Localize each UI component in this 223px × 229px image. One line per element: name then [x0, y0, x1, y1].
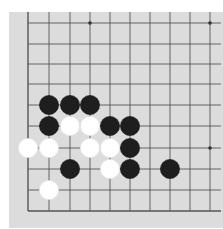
white-stone: [80, 116, 99, 135]
board-intersection[interactable]: [141, 181, 159, 199]
board-intersection[interactable]: [181, 160, 199, 178]
board-intersection[interactable]: [81, 202, 99, 220]
board-intersection[interactable]: [141, 14, 159, 32]
board-intersection[interactable]: [19, 160, 37, 178]
board-intersection[interactable]: [40, 202, 58, 220]
white-stone: [39, 138, 58, 157]
board-intersection[interactable]: [101, 14, 119, 32]
board-intersection[interactable]: [141, 202, 159, 220]
white-stone: [100, 159, 119, 178]
board-intersection[interactable]: [161, 117, 179, 135]
board-intersection[interactable]: [181, 75, 199, 93]
board-intersection[interactable]: [201, 181, 219, 199]
board-intersection[interactable]: [19, 55, 37, 73]
board-intersection[interactable]: [141, 75, 159, 93]
board-intersection[interactable]: [19, 75, 37, 93]
board-intersection[interactable]: [201, 202, 219, 220]
black-stone: [120, 138, 139, 157]
board-intersection[interactable]: [121, 14, 139, 32]
board-intersection[interactable]: [141, 35, 159, 53]
board-intersection[interactable]: [40, 75, 58, 93]
board-intersection[interactable]: [161, 55, 179, 73]
board-intersection[interactable]: [81, 35, 99, 53]
go-board[interactable]: [0, 0, 223, 229]
board-intersection[interactable]: [40, 35, 58, 53]
board-intersection[interactable]: [61, 75, 79, 93]
board-intersection[interactable]: [201, 35, 219, 53]
board-intersection[interactable]: [81, 181, 99, 199]
board-intersection[interactable]: [161, 75, 179, 93]
board-intersection[interactable]: [19, 117, 37, 135]
board-intersection[interactable]: [19, 96, 37, 114]
black-stone: [120, 159, 139, 178]
board-intersection[interactable]: [101, 35, 119, 53]
board-intersection[interactable]: [201, 117, 219, 135]
white-stone: [60, 116, 79, 135]
white-stone: [100, 138, 119, 157]
board-intersection[interactable]: [181, 14, 199, 32]
board-intersection[interactable]: [101, 96, 119, 114]
board-intersection[interactable]: [121, 35, 139, 53]
board-intersection[interactable]: [40, 14, 58, 32]
board-intersection[interactable]: [101, 55, 119, 73]
board-intersection[interactable]: [161, 14, 179, 32]
board-intersection[interactable]: [40, 160, 58, 178]
board-intersection[interactable]: [141, 96, 159, 114]
board-intersection[interactable]: [181, 139, 199, 157]
board-intersection[interactable]: [61, 139, 79, 157]
board-intersection[interactable]: [181, 181, 199, 199]
board-intersection[interactable]: [121, 96, 139, 114]
black-stone: [120, 116, 139, 135]
board-intersection[interactable]: [161, 181, 179, 199]
board-intersection[interactable]: [141, 160, 159, 178]
board-intersection[interactable]: [61, 55, 79, 73]
board-intersection[interactable]: [81, 14, 99, 32]
white-stone: [18, 138, 37, 157]
board-intersection[interactable]: [181, 117, 199, 135]
board-intersection[interactable]: [201, 96, 219, 114]
board-intersection[interactable]: [121, 181, 139, 199]
board-intersection[interactable]: [19, 35, 37, 53]
board-intersection[interactable]: [81, 55, 99, 73]
board-intersection[interactable]: [61, 181, 79, 199]
board-intersection[interactable]: [81, 160, 99, 178]
board-intersection[interactable]: [201, 55, 219, 73]
board-intersection[interactable]: [201, 139, 219, 157]
board-intersection[interactable]: [161, 202, 179, 220]
board-intersection[interactable]: [201, 160, 219, 178]
board-intersection[interactable]: [201, 75, 219, 93]
board-intersection[interactable]: [181, 35, 199, 53]
board-intersection[interactable]: [121, 75, 139, 93]
black-stone: [39, 116, 58, 135]
board-intersection[interactable]: [101, 181, 119, 199]
board-intersection[interactable]: [101, 75, 119, 93]
board-intersection[interactable]: [19, 202, 37, 220]
board-intersection[interactable]: [61, 35, 79, 53]
black-stone: [60, 159, 79, 178]
black-stone: [100, 116, 119, 135]
black-stone: [60, 95, 79, 114]
board-intersection[interactable]: [181, 96, 199, 114]
board-intersection[interactable]: [81, 75, 99, 93]
white-stone: [39, 180, 58, 199]
white-stone: [80, 138, 99, 157]
board-intersection[interactable]: [181, 202, 199, 220]
board-intersection[interactable]: [201, 14, 219, 32]
board-intersection[interactable]: [161, 96, 179, 114]
black-stone: [160, 159, 179, 178]
board-intersection[interactable]: [19, 181, 37, 199]
board-intersection[interactable]: [40, 55, 58, 73]
board-intersection[interactable]: [19, 14, 37, 32]
board-intersection[interactable]: [161, 35, 179, 53]
board-intersection[interactable]: [61, 14, 79, 32]
board-intersection[interactable]: [181, 55, 199, 73]
board-intersection[interactable]: [61, 202, 79, 220]
board-intersection[interactable]: [121, 202, 139, 220]
board-intersection[interactable]: [141, 117, 159, 135]
board-intersection[interactable]: [161, 139, 179, 157]
board-intersection[interactable]: [101, 202, 119, 220]
black-stone: [80, 95, 99, 114]
board-intersection[interactable]: [141, 139, 159, 157]
board-intersection[interactable]: [141, 55, 159, 73]
board-intersection[interactable]: [121, 55, 139, 73]
